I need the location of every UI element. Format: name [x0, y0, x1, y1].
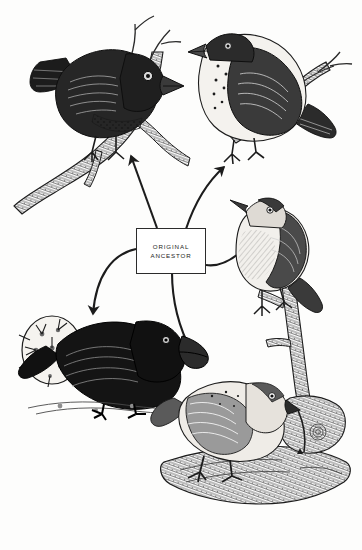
original-ancestor-line2: ANCESTOR	[150, 251, 191, 260]
finch-illustrations-layer	[0, 0, 362, 550]
bird-top-left-finch	[14, 16, 190, 214]
bird-bottom-center-finch	[151, 382, 351, 504]
bird-top-right-finch	[188, 34, 352, 164]
diagram-canvas: ORIGINAL ANCESTOR	[0, 0, 362, 550]
original-ancestor-box: ORIGINAL ANCESTOR	[136, 228, 206, 274]
original-ancestor-line1: ORIGINAL	[153, 242, 189, 251]
